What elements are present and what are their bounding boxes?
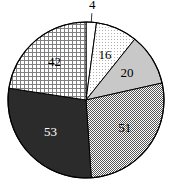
pie-chart: 41620515342 [0, 0, 171, 189]
pie-slice-label-16: 16 [99, 47, 113, 62]
pie-label-leader-line-4 [91, 13, 92, 22]
pie-slices-group [8, 22, 164, 178]
pie-chart-canvas: 41620515342 [0, 0, 171, 189]
pie-slice-label-42: 42 [48, 54, 61, 69]
pie-slice-label-51: 51 [118, 120, 131, 135]
pie-slice-label-20: 20 [121, 65, 134, 80]
pie-slice-label-53: 53 [44, 124, 57, 139]
pie-slice-label-4: 4 [89, 0, 96, 12]
